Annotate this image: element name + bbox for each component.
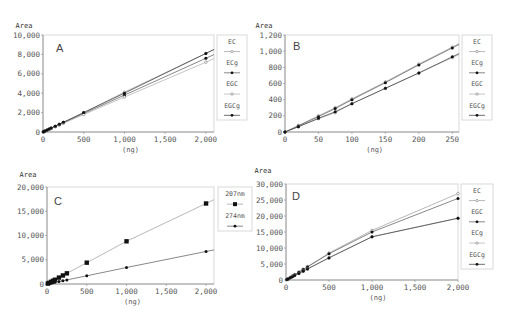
data-point: [57, 275, 61, 279]
legend-marker: [476, 263, 479, 266]
chart-panel-a: 02,0004,0006,0008,00010,00005001,0001,50…: [13, 22, 247, 154]
series-line: [43, 59, 214, 132]
x-tick-label: 2,000: [195, 135, 218, 144]
data-point: [371, 235, 374, 238]
x-tick-label: 500: [77, 135, 91, 144]
y-tick-label: 0: [277, 128, 282, 137]
series-line: [47, 200, 214, 284]
data-point: [61, 273, 65, 277]
panel-label: B: [293, 40, 300, 52]
data-point: [125, 266, 128, 269]
legend-marker: [231, 93, 233, 95]
y-axis-label: Area: [20, 171, 37, 179]
legend-marker: [476, 71, 479, 74]
panel-label: C: [54, 195, 62, 207]
legend-marker: [476, 242, 478, 244]
data-point: [204, 201, 208, 205]
x-axis-label: (ng): [366, 146, 383, 154]
data-point: [123, 96, 126, 99]
legend-label: EC: [473, 38, 481, 46]
series-line: [43, 50, 214, 133]
data-point: [61, 279, 64, 282]
data-point: [451, 46, 454, 49]
series-207nm: [46, 200, 214, 286]
data-point: [124, 239, 128, 243]
data-point: [457, 217, 460, 220]
data-point: [205, 61, 208, 64]
series-line: [286, 218, 458, 280]
x-tick-label: 500: [80, 287, 94, 296]
x-axis-label: (ng): [122, 146, 139, 154]
series-egc: [42, 59, 214, 133]
y-tick-label: 10,000: [17, 231, 45, 240]
data-point: [328, 256, 331, 259]
data-point: [334, 110, 337, 113]
data-point: [65, 278, 68, 281]
legend-label: EGCg: [469, 251, 485, 259]
figure: 02,0004,0006,0008,00010,00005001,0001,50…: [0, 0, 509, 313]
data-point: [350, 98, 353, 101]
x-tick-label: 500: [322, 283, 336, 292]
y-tick-label: 1,200: [259, 31, 282, 40]
y-tick-label: 8,000: [17, 50, 40, 59]
y-tick-label: 0: [39, 280, 44, 289]
legend-marker: [234, 225, 237, 228]
x-tick-label: 1,500: [155, 287, 178, 296]
series-egcg: [284, 54, 460, 134]
legend-label: ECg: [471, 59, 483, 67]
y-tick-label: 0: [278, 276, 283, 285]
data-point: [350, 102, 353, 105]
chart-panel-b: 02004006008001,0001,200050100150200250Ar…: [256, 22, 492, 154]
legend-marker: [233, 202, 237, 206]
data-point: [328, 252, 331, 255]
x-axis-label: (ng): [370, 294, 387, 302]
data-point: [451, 55, 454, 58]
data-point: [54, 125, 57, 128]
y-tick-label: 5,000: [21, 255, 44, 264]
x-tick-label: 100: [345, 135, 359, 144]
y-tick-label: 20,000: [256, 212, 284, 221]
x-tick-label: 150: [379, 135, 393, 144]
x-axis-label: (ng): [124, 298, 141, 306]
y-axis-label: Area: [255, 167, 272, 175]
y-tick-label: 4,000: [17, 89, 40, 98]
legend-label: EC: [473, 187, 481, 195]
legend-label: EGC: [471, 80, 483, 88]
legend-label: ECg: [226, 59, 238, 67]
y-axis-label: Area: [256, 22, 273, 30]
legend-label: ECg: [471, 229, 483, 237]
x-tick-label: 0: [284, 283, 289, 292]
y-tick-label: 200: [268, 111, 282, 120]
y-tick-label: 25,000: [256, 196, 284, 205]
data-point: [205, 250, 208, 253]
legend-label: EGC: [226, 80, 238, 88]
series-line: [285, 45, 459, 133]
series-274nm: [46, 250, 214, 285]
data-point: [302, 270, 305, 273]
data-point: [85, 274, 88, 277]
data-point: [417, 63, 420, 66]
x-tick-label: 2,000: [447, 283, 470, 292]
legend-marker: [476, 199, 478, 201]
x-tick-label: 0: [283, 135, 288, 144]
plot-frame: [47, 187, 214, 284]
legend: ECECgEGCEGCg: [217, 35, 247, 120]
legend-marker: [231, 114, 234, 117]
x-tick-label: 2,000: [195, 287, 218, 296]
data-point: [334, 107, 337, 110]
x-tick-label: 1,500: [404, 283, 427, 292]
x-tick-label: 1,500: [154, 135, 177, 144]
y-tick-label: 10,000: [13, 31, 41, 40]
x-tick-label: 0: [45, 287, 50, 296]
series-line: [286, 198, 458, 280]
series-ecg: [286, 217, 460, 281]
x-tick-label: 0: [41, 135, 46, 144]
data-point: [457, 197, 460, 200]
series-egcg: [285, 217, 459, 281]
data-point: [204, 57, 207, 60]
chart-panel-d: 05,00010,00015,00020,00025,00030,0000500…: [255, 167, 493, 302]
y-tick-label: 400: [268, 95, 282, 104]
legend-marker: [231, 50, 233, 52]
x-tick-label: 1,000: [113, 135, 136, 144]
legend-marker: [476, 114, 479, 117]
